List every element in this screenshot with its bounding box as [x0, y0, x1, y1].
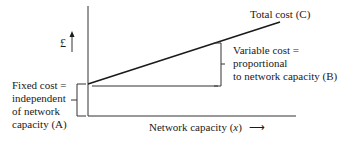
fixed-cost-line-1: Fixed cost = [12, 79, 67, 92]
x-axis-label-close: ) [238, 121, 242, 133]
total-cost-label: Total cost (C) [250, 8, 310, 21]
variable-cost-line-3: to network capacity (B) [233, 70, 337, 83]
right-arrow-icon: ⟶ [249, 121, 265, 133]
fixed-cost-line-3: of network [12, 105, 67, 118]
x-axis-label-text: Network capacity ( [149, 121, 233, 133]
y-axis-symbol: £ [60, 37, 66, 50]
y-axis-arrow-icon [70, 31, 75, 52]
variable-cost-line-2: proportional [233, 57, 337, 70]
fixed-cost-bracket [71, 84, 86, 116]
variable-cost-label: Variable cost = proportional to network … [233, 44, 337, 83]
variable-cost-line-1: Variable cost = [233, 44, 337, 57]
fixed-cost-line-2: independent [12, 92, 67, 105]
x-axis-label: Network capacity (x) ⟶ [149, 121, 265, 134]
variable-cost-bracket [214, 43, 225, 86]
fixed-cost-label: Fixed cost = independent of network capa… [12, 79, 67, 131]
fixed-cost-line-4: capacity (A) [12, 118, 67, 131]
cost-diagram: £ Total cost (C) Variable cost = proport… [0, 0, 344, 142]
